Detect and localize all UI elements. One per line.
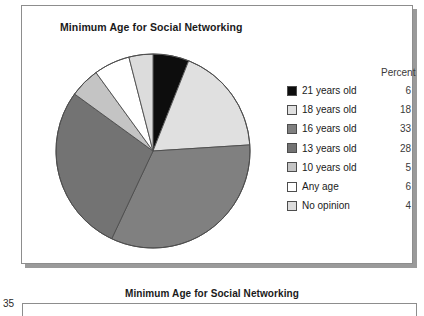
legend-item[interactable]: Any age6	[287, 177, 424, 196]
bottom-chart-plot-frame	[22, 303, 417, 316]
legend-item-value: 6	[387, 85, 411, 96]
legend-item-value: 5	[387, 162, 411, 173]
legend-item-label: 10 years old	[302, 162, 356, 173]
chart-legend: Percent 21 years old618 years old1816 ye…	[287, 81, 424, 215]
chart-title: Minimum Age for Social Networking	[60, 21, 243, 33]
legend-item[interactable]: 10 years old5	[287, 158, 424, 177]
legend-color-swatch	[287, 124, 297, 134]
legend-item-label: Any age	[302, 181, 339, 192]
legend-item-value: 6	[387, 181, 411, 192]
pie-chart	[55, 53, 251, 249]
legend-item-value: 4	[387, 200, 411, 211]
legend-item[interactable]: No opinion4	[287, 196, 424, 215]
legend-item-value: 18	[387, 104, 411, 115]
legend-color-swatch	[287, 86, 297, 96]
bottom-chart-title: Minimum Age for Social Networking	[0, 288, 424, 299]
legend-item[interactable]: 18 years old18	[287, 100, 424, 119]
legend-item-label: 13 years old	[302, 143, 356, 154]
legend-item-label: 16 years old	[302, 123, 356, 134]
legend-color-swatch	[287, 105, 297, 115]
figure-panel-shadow	[25, 264, 417, 268]
legend-color-swatch	[287, 162, 297, 172]
legend-item[interactable]: 16 years old33	[287, 119, 424, 138]
pie-slice-group	[56, 54, 250, 248]
legend-color-swatch	[287, 182, 297, 192]
legend-item-label: 18 years old	[302, 104, 356, 115]
bottom-chart-axis-tick: 35	[3, 298, 14, 309]
legend-color-swatch	[287, 201, 297, 211]
legend-item-value: 28	[387, 143, 411, 154]
legend-item-value: 33	[387, 123, 411, 134]
legend-item-label: 21 years old	[302, 85, 356, 96]
pie-chart-svg	[55, 53, 251, 249]
legend-color-swatch	[287, 143, 297, 153]
legend-value-header: Percent	[381, 67, 415, 78]
legend-item-label: No opinion	[302, 200, 350, 211]
pie-chart-figure-panel: Minimum Age for Social Networking Percen…	[21, 5, 413, 264]
legend-item[interactable]: 21 years old6	[287, 81, 424, 100]
legend-item[interactable]: 13 years old28	[287, 139, 424, 158]
